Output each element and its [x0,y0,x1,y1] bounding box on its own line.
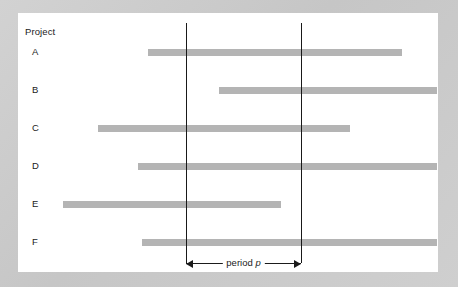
category-label-a: A [32,46,38,57]
arrow-left-icon [186,260,193,268]
plot-area: Project A B C D E F period p [18,13,438,272]
period-end-line [301,23,302,263]
timeline-bar-b [219,87,437,94]
period-annotation-label: period p [222,256,264,270]
arrow-right-icon [294,260,301,268]
category-label-f: F [32,236,38,247]
figure-canvas: Project A B C D E F period p [0,0,458,287]
chart-panel: Project A B C D E F period p [18,13,438,272]
category-label-b: B [32,84,38,95]
timeline-bar-e [63,201,281,208]
category-label-d: D [32,160,39,171]
axis-header-label: Project [25,26,55,37]
timeline-bar-c [98,125,350,132]
period-start-line [186,23,187,263]
timeline-bar-d [138,163,437,170]
period-annotation: period p [186,256,301,270]
category-label-e: E [32,198,38,209]
category-label-c: C [32,122,39,133]
